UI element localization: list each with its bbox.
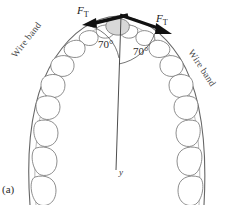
tooth-left-3 xyxy=(64,40,85,57)
y-axis-label: y xyxy=(119,168,123,177)
tooth-right-7 xyxy=(176,120,200,146)
tooth-left-9 xyxy=(31,176,56,205)
force-label-left: FT xyxy=(77,5,89,19)
tooth-right-3 xyxy=(149,40,170,57)
force-label-right-subscript: T xyxy=(163,18,168,27)
tooth-right-5 xyxy=(169,74,193,97)
y-axis-line xyxy=(116,16,121,170)
panel-label: (a) xyxy=(2,184,14,195)
teeth-row-left xyxy=(31,25,114,205)
force-label-left-subscript: T xyxy=(84,10,89,19)
tooth-left-6 xyxy=(36,96,60,120)
force-label-right-symbol: F xyxy=(156,12,163,24)
tooth-left-7 xyxy=(34,120,58,146)
tooth-right-9 xyxy=(178,176,203,205)
tooth-right-6 xyxy=(174,96,198,120)
force-label-right: FT xyxy=(156,13,168,27)
tooth-left-8 xyxy=(32,147,57,175)
angle-label-left: 70° xyxy=(98,39,113,50)
tooth-right-4 xyxy=(160,56,183,77)
tooth-right-8 xyxy=(177,147,202,175)
tooth-left-4 xyxy=(51,56,74,77)
dental-arch-figure: Wire band Wire band FT FT 70° 70° y (a) xyxy=(0,0,230,205)
force-label-left-symbol: F xyxy=(77,4,84,16)
tooth-left-5 xyxy=(41,74,65,97)
angle-label-right: 70° xyxy=(133,46,148,57)
